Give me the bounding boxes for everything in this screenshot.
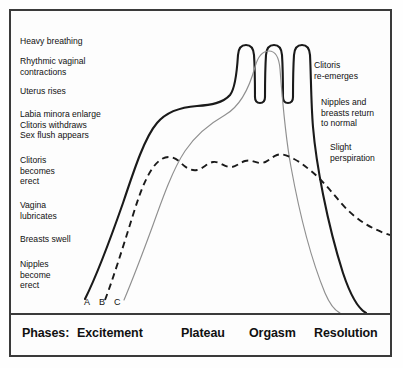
label-clitoris-re-emerges: Clitoris re-emerges xyxy=(314,60,358,81)
label-nipples-breasts-return: Nipples and breasts return to normal xyxy=(321,97,374,129)
label-heavy-breathing: Heavy breathing xyxy=(20,36,83,47)
label-labia-clitoris-sexflush: Labia minora enlarge Clitoris withdraws … xyxy=(20,109,101,141)
label-slight-perspiration: Slight perspiration xyxy=(330,142,375,163)
curve-b-path xyxy=(105,154,390,300)
axis-marker-a: A xyxy=(84,297,90,307)
label-breasts-swell: Breasts swell xyxy=(20,234,71,245)
plot-area: Heavy breathing Rhythmic vaginal contrac… xyxy=(11,11,390,313)
phase-plateau: Plateau xyxy=(181,326,225,340)
label-nipples-become-erect: Nipples become erect xyxy=(20,259,51,291)
phases-bar-title: Phases: xyxy=(22,326,69,340)
label-rhythmic-vaginal-contractions: Rhythmic vaginal contractions xyxy=(20,56,85,77)
label-vagina-lubricates: Vagina lubricates xyxy=(20,200,57,221)
curve-a-path xyxy=(85,45,366,313)
phases-bar: Phases: Excitement Plateau Orgasm Resolu… xyxy=(11,315,390,355)
axis-marker-b: B xyxy=(99,297,105,307)
phase-orgasm: Orgasm xyxy=(249,326,296,340)
phase-excitement: Excitement xyxy=(77,326,143,340)
label-clitoris-becomes-erect: Clitoris becomes erect xyxy=(20,155,55,187)
label-uterus-rises: Uterus rises xyxy=(20,86,66,97)
sexual-response-cycle-figure: Heavy breathing Rhythmic vaginal contrac… xyxy=(0,0,403,368)
phase-resolution: Resolution xyxy=(314,326,378,340)
axis-marker-c: C xyxy=(114,297,121,307)
